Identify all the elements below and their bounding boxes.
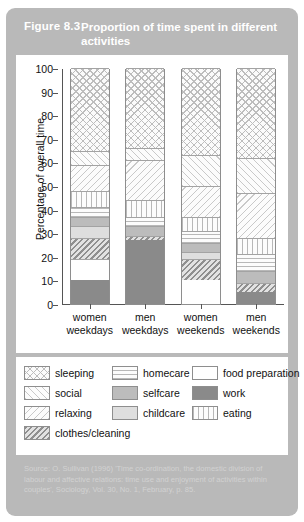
y-tick-mark (53, 234, 58, 235)
bar-segment-food-preparation[interactable] (182, 280, 220, 304)
y-tick-label: 10 (23, 275, 53, 287)
chart-legend: sleepinghomecarefood preparationsocialse… (16, 357, 288, 455)
bar-stack[interactable] (181, 69, 221, 305)
bar-segment-eating[interactable] (126, 200, 164, 217)
bar-stack[interactable] (70, 69, 110, 305)
figure-title: Proportion of time spent in different ac… (81, 20, 281, 48)
bar-column[interactable] (125, 69, 165, 305)
legend-swatch (24, 386, 50, 400)
bar-segment-social[interactable] (237, 158, 275, 193)
bar-segment-relaxing[interactable] (182, 186, 220, 217)
bar-segment-relaxing[interactable] (237, 193, 275, 238)
y-tick-mark (53, 258, 58, 259)
bar-segment-food-preparation[interactable] (71, 259, 109, 280)
legend-swatch (24, 366, 50, 380)
bar-segment-work[interactable] (126, 240, 164, 304)
y-tick-mark (53, 140, 58, 141)
bar-segment-work[interactable] (71, 280, 109, 304)
x-tick-label-line: weekends (227, 324, 285, 337)
bar-segment-social[interactable] (71, 151, 109, 165)
bar-segment-clothes-cleaning[interactable] (126, 236, 164, 241)
bar-stack[interactable] (236, 69, 276, 305)
x-tick-label: womenweekdays (61, 311, 119, 337)
y-axis-ticks: 0102030405060708090100 (16, 55, 62, 353)
x-tick-label: womenweekends (172, 311, 230, 337)
bar-segment-eating[interactable] (71, 191, 109, 208)
bar-column[interactable] (70, 69, 110, 305)
y-tick-mark (53, 163, 58, 164)
legend-label: clothes/cleaning (55, 425, 130, 441)
legend-swatch (112, 386, 138, 400)
bar-segment-selfcare[interactable] (71, 217, 109, 226)
legend-label: homecare (143, 365, 190, 381)
x-tick-label: menweekends (227, 311, 285, 337)
x-tick-mark (256, 304, 257, 309)
y-tick-mark (53, 211, 58, 212)
legend-swatch (192, 366, 218, 380)
bar-segment-homecare[interactable] (71, 207, 109, 216)
legend-swatch (24, 426, 50, 440)
y-tick-mark (53, 305, 58, 306)
x-tick-mark (201, 304, 202, 309)
y-tick-label: 100 (23, 63, 53, 75)
bar-segment-selfcare[interactable] (126, 226, 164, 235)
figure-title-bar: Figure 8.3 Proportion of time spent in d… (6, 8, 298, 54)
bar-segment-work[interactable] (237, 292, 275, 304)
y-tick-mark (53, 93, 58, 94)
x-tick-label-line: weekdays (61, 324, 119, 337)
y-tick-mark (53, 187, 58, 188)
legend-label: childcare (143, 405, 185, 421)
legend-label: selfcare (143, 385, 180, 401)
bar-stack[interactable] (125, 69, 165, 305)
legend-label: food preparation (223, 365, 299, 381)
x-tick-label-line: women (172, 311, 230, 324)
y-tick-label: 70 (23, 134, 53, 146)
legend-swatch (112, 406, 138, 420)
bar-segment-homecare[interactable] (237, 254, 275, 271)
legend-swatch (192, 386, 218, 400)
y-tick-label: 30 (23, 228, 53, 240)
bar-segment-clothes-cleaning[interactable] (237, 283, 275, 292)
stacked-bars-group (62, 69, 284, 305)
bar-segment-social[interactable] (182, 155, 220, 186)
bar-segment-clothes-cleaning[interactable] (71, 238, 109, 259)
y-tick-label: 80 (23, 110, 53, 122)
bar-segment-sleeping[interactable] (237, 68, 275, 158)
legend-label: sleeping (55, 365, 94, 381)
y-tick-mark (53, 281, 58, 282)
bar-segment-selfcare[interactable] (237, 271, 275, 283)
bar-column[interactable] (236, 69, 276, 305)
y-tick-mark (53, 69, 58, 70)
x-tick-label-line: men (116, 311, 174, 324)
bar-segment-childcare[interactable] (71, 226, 109, 238)
y-tick-mark (53, 116, 58, 117)
figure-number: Figure 8.3 (24, 20, 80, 32)
bar-segment-relaxing[interactable] (126, 160, 164, 200)
bar-segment-social[interactable] (126, 148, 164, 160)
legend-label: social (55, 385, 82, 401)
figure-card: Figure 8.3 Proportion of time spent in d… (6, 8, 298, 516)
bar-segment-eating[interactable] (237, 238, 275, 255)
bar-segment-clothes-cleaning[interactable] (182, 259, 220, 280)
x-tick-label: menweekdays (116, 311, 174, 337)
x-tick-label-line: men (227, 311, 285, 324)
legend-swatch (192, 406, 218, 420)
bar-segment-homecare[interactable] (126, 217, 164, 226)
bar-column[interactable] (181, 69, 221, 305)
bar-segment-childcare[interactable] (182, 252, 220, 259)
legend-label: eating (223, 405, 252, 421)
x-tick-label-line: weekends (172, 324, 230, 337)
bar-segment-eating[interactable] (182, 217, 220, 231)
legend-label: work (223, 385, 245, 401)
legend-swatch (24, 406, 50, 420)
bar-segment-selfcare[interactable] (182, 243, 220, 252)
y-tick-label: 90 (23, 87, 53, 99)
legend-swatch (112, 366, 138, 380)
y-tick-label: 40 (23, 205, 53, 217)
bar-segment-sleeping[interactable] (71, 68, 109, 151)
y-tick-label: 20 (23, 252, 53, 264)
bar-segment-sleeping[interactable] (182, 68, 220, 155)
bar-segment-sleeping[interactable] (126, 68, 164, 148)
bar-segment-relaxing[interactable] (71, 165, 109, 191)
bar-segment-homecare[interactable] (182, 231, 220, 243)
